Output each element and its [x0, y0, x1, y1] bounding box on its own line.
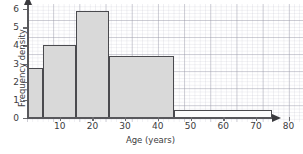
histogram-chart: 10 20 30 40 50 60 70 80 0 1 2 3 4 5 6 Ag… [0, 0, 303, 154]
y-axis-label-container: Frequency density [7, 4, 21, 122]
x-axis-line [27, 117, 274, 119]
x-axis-arrow-icon [272, 114, 281, 122]
x-tick-label: 40 [152, 121, 163, 131]
x-tick-label: 20 [87, 121, 98, 131]
x-tick-label: 30 [119, 121, 130, 131]
x-tick-label: 50 [185, 121, 196, 131]
y-axis-label: Frequency density [17, 13, 27, 123]
histogram-bar [43, 45, 76, 119]
histogram-bar [27, 68, 43, 119]
x-tick-label: 70 [250, 121, 261, 131]
x-tick-label: 80 [283, 121, 294, 131]
histogram-bar [109, 56, 174, 120]
histogram-bar [76, 11, 109, 119]
y-tick [23, 9, 27, 10]
plot-area: 10 20 30 40 50 60 70 80 0 1 2 3 4 5 6 [27, 4, 303, 122]
y-axis-arrow-icon [24, 0, 32, 5]
y-axis-line [27, 4, 29, 119]
x-axis-label: Age (years) [27, 135, 274, 145]
x-tick-label: 10 [54, 121, 65, 131]
x-tick-label: 60 [217, 121, 228, 131]
